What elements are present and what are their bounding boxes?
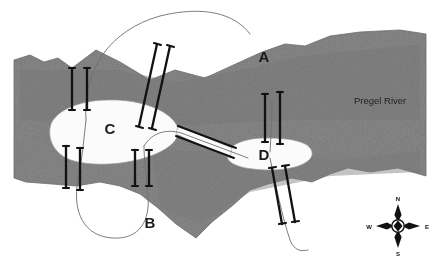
compass-label-north: N [396, 196, 400, 202]
koenigsberg-bridges-map: A B C D Pregel River [0, 0, 439, 259]
compass-rose: N S E W [366, 196, 429, 257]
compass-label-west: W [366, 224, 372, 230]
region-label-c: C [105, 120, 116, 137]
compass-label-east: E [425, 224, 429, 230]
region-label-b: B [145, 214, 156, 231]
region-label-a: A [259, 48, 270, 65]
compass-label-south: S [396, 251, 400, 257]
map-canvas: A B C D Pregel River [0, 0, 439, 259]
river-name-label: Pregel River [354, 95, 406, 106]
region-label-d: D [259, 146, 270, 163]
